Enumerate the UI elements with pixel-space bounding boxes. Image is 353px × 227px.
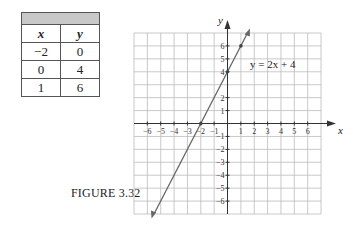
svg-text:6: 6 bbox=[306, 127, 310, 136]
svg-text:5: 5 bbox=[292, 127, 296, 136]
coordinate-graph: −6−5−4−3−2−112345665421−1−2−3−4−5−6 x y … bbox=[0, 0, 353, 227]
svg-text:6: 6 bbox=[221, 42, 225, 51]
svg-text:−3: −3 bbox=[183, 127, 192, 136]
svg-text:2: 2 bbox=[252, 127, 256, 136]
point-0-4 bbox=[226, 70, 230, 74]
svg-text:−6: −6 bbox=[143, 127, 152, 136]
svg-text:−5: −5 bbox=[156, 127, 165, 136]
line-arrow-end-icon bbox=[245, 29, 250, 37]
point-neg2-0 bbox=[199, 122, 203, 126]
svg-text:2: 2 bbox=[221, 94, 225, 103]
x-axis-label: x bbox=[337, 124, 343, 136]
svg-text:−2: −2 bbox=[216, 145, 225, 154]
svg-text:4: 4 bbox=[279, 127, 283, 136]
svg-text:4: 4 bbox=[221, 68, 225, 77]
svg-text:−4: −4 bbox=[170, 127, 179, 136]
svg-text:1: 1 bbox=[221, 107, 225, 116]
svg-text:−6: −6 bbox=[216, 197, 225, 206]
equation-label: y = 2x + 4 bbox=[250, 58, 296, 70]
svg-text:3: 3 bbox=[266, 127, 270, 136]
svg-text:−4: −4 bbox=[216, 171, 225, 180]
point-1-6 bbox=[239, 44, 243, 48]
svg-text:−1: −1 bbox=[216, 132, 225, 141]
y-axis-label: y bbox=[217, 14, 223, 26]
svg-text:1: 1 bbox=[239, 127, 243, 136]
x-axis-arrow-icon bbox=[327, 121, 336, 127]
svg-text:5: 5 bbox=[221, 55, 225, 64]
svg-text:−3: −3 bbox=[216, 158, 225, 167]
svg-text:−5: −5 bbox=[216, 184, 225, 193]
y-axis-arrow-icon bbox=[225, 20, 231, 29]
